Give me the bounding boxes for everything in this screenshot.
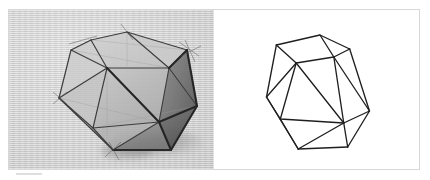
caption-mark [16, 173, 42, 175]
shaded-cuboctahedron-drawing [9, 10, 213, 169]
panel-shaded-pencil-drawing [9, 10, 213, 169]
line-art-edges [266, 35, 369, 149]
figure-container [0, 0, 430, 180]
line-art-cuboctahedron-drawing [214, 10, 419, 169]
panel-line-art-drawing [213, 10, 419, 169]
figure-frame [8, 9, 420, 170]
